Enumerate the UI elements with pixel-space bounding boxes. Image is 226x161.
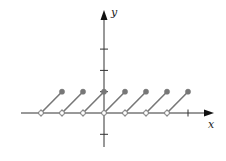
- axes: [21, 10, 214, 147]
- segment-line: [104, 92, 125, 113]
- segment-line: [167, 92, 188, 113]
- x-axis-arrow: [204, 110, 214, 117]
- closed-endpoint: [185, 89, 190, 94]
- segments: [39, 89, 191, 115]
- open-endpoint: [60, 111, 65, 116]
- open-endpoint: [123, 111, 128, 116]
- sawtooth-chart: x y: [0, 0, 226, 161]
- open-endpoint: [102, 111, 107, 116]
- closed-endpoint: [122, 89, 127, 94]
- segment-line: [41, 92, 62, 113]
- y-axis-label: y: [110, 6, 118, 19]
- open-endpoint: [165, 111, 170, 116]
- closed-endpoint: [101, 89, 106, 94]
- segment-line: [62, 92, 83, 113]
- closed-endpoint: [164, 89, 169, 94]
- segment-line: [125, 92, 146, 113]
- segment-line: [146, 92, 167, 113]
- x-axis-label: x: [208, 118, 215, 131]
- open-endpoint: [81, 111, 86, 116]
- closed-endpoint: [59, 89, 64, 94]
- open-endpoint: [39, 111, 44, 116]
- segment-line: [83, 92, 104, 113]
- closed-endpoint: [143, 89, 148, 94]
- open-endpoint: [144, 111, 149, 116]
- closed-endpoint: [80, 89, 85, 94]
- y-axis-arrow: [101, 10, 108, 20]
